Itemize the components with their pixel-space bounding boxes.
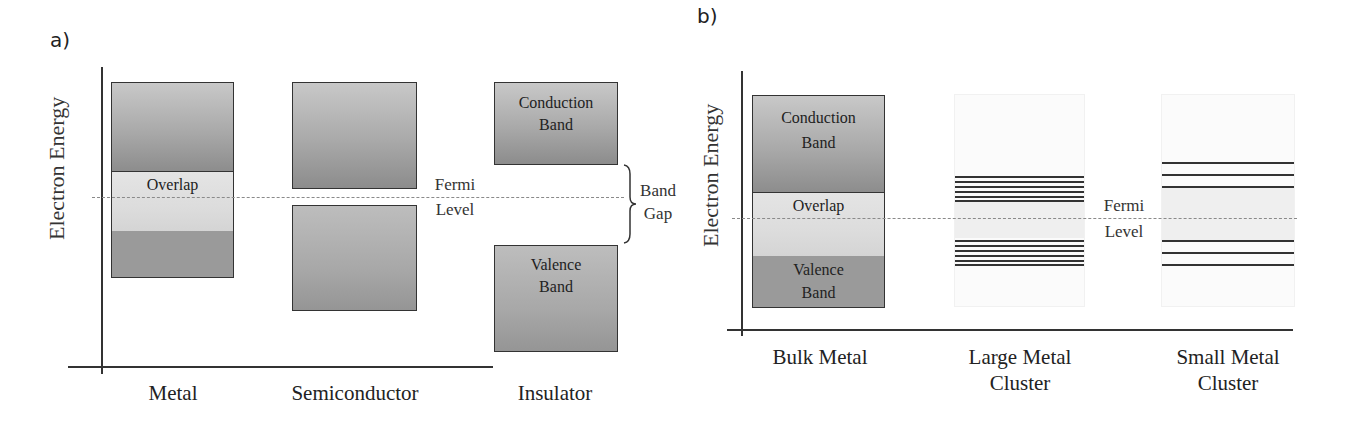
panel-b-y-axis-label: Electron Energy [698, 104, 724, 247]
large-cluster-level [955, 176, 1084, 178]
label-metal: Metal [118, 380, 228, 406]
insulator-conduction-label-1: Conduction [495, 92, 617, 114]
insulator-conduction-band: Conduction Band [494, 82, 618, 165]
small-cluster-level [1162, 252, 1294, 254]
panel-b-fermi-label-1: Fermi [1094, 195, 1154, 217]
insulator-valence-label-2: Band [495, 276, 617, 298]
panel-a-fermi-label-1: Fermi [425, 174, 485, 196]
insulator-valence-band: Valence Band [494, 245, 618, 352]
bulk-conduction-label-2: Band [753, 132, 884, 154]
metal-conduction-band [111, 82, 234, 172]
panel-b-x-axis [727, 329, 1293, 331]
band-gap-label-1: Band [636, 180, 680, 202]
panel-a-y-axis-label: Electron Energy [44, 97, 70, 240]
small-cluster-level [1162, 162, 1294, 164]
small-cluster-level [1162, 240, 1294, 242]
label-semiconductor: Semiconductor [280, 380, 430, 406]
small-cluster-gap [1162, 188, 1294, 240]
panel-a-y-axis [101, 67, 103, 374]
large-cluster-level [955, 191, 1084, 193]
bulk-conduction-band: Conduction Band [752, 95, 885, 193]
large-cluster-level [955, 200, 1084, 202]
large-cluster-level [955, 255, 1084, 257]
insulator-valence-label-1: Valence [495, 254, 617, 276]
semiconductor-conduction-band [292, 82, 417, 189]
large-cluster-level [955, 245, 1084, 247]
bulk-overlap-label: Overlap [753, 195, 884, 217]
metal-overlap-region: Overlap [111, 171, 234, 232]
label-large-cluster-line2: Cluster [940, 370, 1100, 396]
band-gap-label-2: Gap [636, 203, 680, 225]
panel-a-fermi-level-line [92, 197, 624, 198]
label-insulator: Insulator [500, 380, 610, 406]
semiconductor-valence-band [292, 205, 417, 311]
panel-b-label: b) [697, 4, 718, 28]
label-small-metal-cluster: Small Metal Cluster [1148, 344, 1308, 396]
metal-overlap-label: Overlap [112, 174, 233, 196]
large-cluster-level [955, 250, 1084, 252]
large-cluster-level [955, 240, 1084, 242]
metal-valence-band [111, 231, 234, 278]
small-cluster-level [1162, 186, 1294, 188]
large-cluster-level [955, 260, 1084, 262]
panel-b-fermi-level-line [732, 218, 1297, 219]
label-bulk-metal: Bulk Metal [752, 344, 888, 370]
large-cluster-gap [955, 200, 1084, 238]
insulator-conduction-label-2: Band [495, 114, 617, 136]
large-cluster-level [955, 264, 1084, 266]
bulk-valence-band: Valence Band [752, 256, 885, 308]
panel-a-x-axis [68, 366, 493, 368]
bulk-conduction-label-1: Conduction [753, 107, 884, 129]
large-cluster-level [955, 196, 1084, 198]
label-small-cluster-line2: Cluster [1148, 370, 1308, 396]
panel-b-fermi-label-2: Level [1094, 221, 1154, 243]
large-cluster-level [955, 181, 1084, 183]
label-small-cluster-line1: Small Metal [1148, 344, 1308, 370]
bulk-valence-label-1: Valence [753, 259, 884, 281]
label-large-metal-cluster: Large Metal Cluster [940, 344, 1100, 396]
bulk-valence-label-2: Band [753, 282, 884, 304]
small-cluster-level [1162, 264, 1294, 266]
panel-b-y-axis [741, 71, 743, 336]
panel-a-label: a) [50, 28, 70, 52]
bulk-overlap-region: Overlap [752, 192, 885, 257]
small-cluster-level [1162, 174, 1294, 176]
label-large-cluster-line1: Large Metal [940, 344, 1100, 370]
large-cluster-level [955, 186, 1084, 188]
panel-a-fermi-label-2: Level [425, 199, 485, 221]
label-bulk-metal-line1: Bulk Metal [752, 344, 888, 370]
